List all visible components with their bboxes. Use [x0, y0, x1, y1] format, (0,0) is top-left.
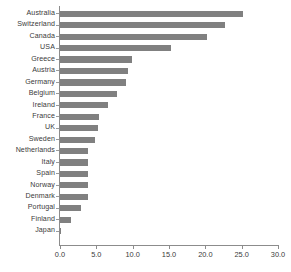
- category-label: UK: [45, 122, 55, 133]
- category-label: USA: [40, 42, 55, 53]
- bar-row: Austria: [0, 65, 291, 76]
- x-axis-tick: [205, 246, 206, 249]
- x-axis-tick-label: 20.0: [198, 250, 212, 259]
- bar: [60, 148, 88, 154]
- bar: [60, 137, 95, 143]
- x-axis-tick: [133, 246, 134, 249]
- bar: [60, 56, 132, 62]
- category-label: Netherlands: [16, 145, 55, 156]
- category-label: Australia: [27, 8, 56, 19]
- plot-area: AustraliaSwitzerlandCanadaUSAGreeceAustr…: [0, 0, 291, 272]
- bar-row: Netherlands: [0, 145, 291, 156]
- category-label: France: [32, 111, 55, 122]
- category-label: Italy: [41, 157, 55, 168]
- bar: [60, 182, 88, 188]
- category-label: Greece: [31, 54, 55, 65]
- bar-row: Australia: [0, 8, 291, 19]
- x-axis-tick-label: 0.0: [55, 250, 65, 259]
- x-axis-tick: [242, 246, 243, 249]
- bar-row: Italy: [0, 157, 291, 168]
- bar: [60, 114, 99, 120]
- bar-row: Belgium: [0, 88, 291, 99]
- bar: [60, 11, 243, 17]
- bar-row: Greece: [0, 54, 291, 65]
- bar-row: Finland: [0, 214, 291, 225]
- bar-chart: AustraliaSwitzerlandCanadaUSAGreeceAustr…: [0, 0, 291, 272]
- bar-row: Spain: [0, 168, 291, 179]
- x-axis-tick-label: 15.0: [162, 250, 176, 259]
- y-axis-line: [59, 6, 60, 246]
- x-axis-tick: [60, 246, 61, 249]
- bar-row: Denmark: [0, 191, 291, 202]
- category-label: Sweden: [29, 134, 55, 145]
- category-label: Austria: [32, 65, 55, 76]
- bar-rows: AustraliaSwitzerlandCanadaUSAGreeceAustr…: [0, 8, 291, 237]
- x-axis-tick-label: 5.0: [91, 250, 101, 259]
- bar-row: Portugal: [0, 202, 291, 213]
- bar: [60, 159, 88, 165]
- category-label: Ireland: [33, 100, 55, 111]
- bar: [60, 68, 128, 74]
- category-label: Japan: [35, 225, 55, 236]
- x-axis-tick: [169, 246, 170, 249]
- bar: [60, 91, 117, 97]
- bar: [60, 205, 81, 211]
- bar: [60, 22, 225, 28]
- bar: [60, 171, 88, 177]
- x-axis-tick-label: 25.0: [234, 250, 248, 259]
- bar: [60, 45, 171, 51]
- bar-row: Norway: [0, 180, 291, 191]
- category-label: Germany: [25, 77, 55, 88]
- category-label: Denmark: [26, 191, 55, 202]
- category-label: Spain: [36, 168, 55, 179]
- bar: [60, 102, 108, 108]
- bar: [60, 125, 98, 131]
- bar-row: USA: [0, 42, 291, 53]
- category-label: Finland: [31, 214, 55, 225]
- bar-row: Germany: [0, 77, 291, 88]
- category-label: Switzerland: [17, 19, 55, 30]
- x-axis-tick-label: 30.0: [271, 250, 285, 259]
- category-label: Portugal: [28, 202, 55, 213]
- bar-row: UK: [0, 122, 291, 133]
- bar-row: Switzerland: [0, 19, 291, 30]
- bar-row: Ireland: [0, 100, 291, 111]
- bar-row: Canada: [0, 31, 291, 42]
- bar-row: Japan: [0, 225, 291, 236]
- bar: [60, 194, 88, 200]
- bar: [60, 79, 126, 85]
- x-axis-tick: [278, 246, 279, 249]
- bar-row: France: [0, 111, 291, 122]
- bar: [60, 228, 61, 234]
- category-label: Canada: [30, 31, 55, 42]
- x-axis-tick-label: 10.0: [125, 250, 139, 259]
- bar-row: Sweden: [0, 134, 291, 145]
- bar: [60, 217, 71, 223]
- category-label: Norway: [30, 180, 55, 191]
- x-axis-tick: [96, 246, 97, 249]
- category-label: Belgium: [29, 88, 55, 99]
- bar: [60, 34, 207, 40]
